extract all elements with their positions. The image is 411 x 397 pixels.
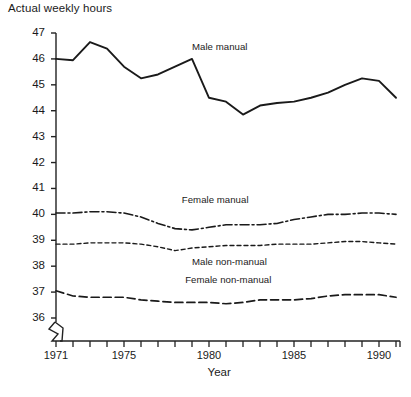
series-label: Female manual — [182, 194, 249, 205]
series-label: Female non-manual — [185, 274, 271, 285]
series-line — [56, 242, 396, 251]
x-axis-title: Year — [189, 366, 249, 378]
x-axis-tick-label: 1980 — [189, 350, 229, 361]
y-axis-tick-label: 37 — [23, 286, 45, 298]
y-axis-tick-label: 38 — [23, 260, 45, 272]
x-axis-tick-label: 1985 — [274, 350, 314, 361]
series-label: Male manual — [192, 41, 247, 52]
y-axis-tick-label: 46 — [23, 53, 45, 65]
y-axis-tick-label: 39 — [23, 234, 45, 246]
chart-container: Actual weekly hours 47464544434241403938… — [0, 0, 411, 397]
series-line — [56, 42, 396, 115]
x-axis-tick-label: 1990 — [359, 350, 399, 361]
y-axis-tick-label: 36 — [23, 312, 45, 324]
x-axis-tick-label: 1971 — [36, 350, 76, 361]
y-axis-tick-label: 40 — [23, 208, 45, 220]
y-axis-tick-label: 47 — [23, 27, 45, 39]
y-axis-tick-label: 43 — [23, 131, 45, 143]
series-label: Male non-manual — [192, 256, 267, 267]
y-axis-tick-label: 41 — [23, 182, 45, 194]
y-axis-tick-label: 44 — [23, 105, 45, 117]
y-axis-tick-label: 42 — [23, 157, 45, 169]
y-axis-tick-label: 45 — [23, 79, 45, 91]
series-line — [56, 212, 396, 230]
series-line — [56, 291, 396, 304]
chart-axes — [49, 33, 400, 347]
x-axis-tick-label: 1975 — [104, 350, 144, 361]
